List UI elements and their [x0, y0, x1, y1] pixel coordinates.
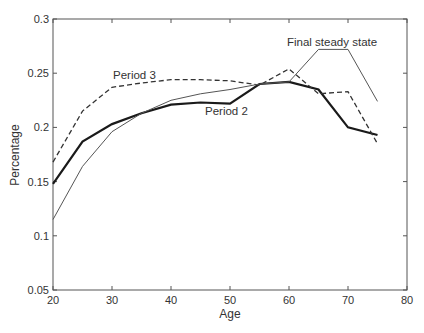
x-axis-label: Age [219, 307, 241, 321]
series-final-steady-state [53, 49, 378, 219]
y-tick-label: 0.1 [34, 230, 49, 242]
x-tick-label: 70 [342, 294, 354, 306]
y-tick-label: 0.3 [34, 13, 49, 25]
annotation-period-2: Period 2 [205, 105, 248, 117]
axis-ticks: 203040506070800.050.10.150.20.250.3 [28, 13, 414, 306]
x-tick-label: 60 [283, 294, 295, 306]
y-tick-label: 0.2 [34, 121, 49, 133]
y-tick-label: 0.25 [28, 67, 49, 79]
y-tick-label: 0.05 [28, 284, 49, 296]
series-period-2 [53, 82, 378, 184]
y-tick-label: 0.15 [28, 176, 49, 188]
x-tick-label: 40 [165, 294, 177, 306]
data-series [53, 49, 378, 219]
x-tick-label: 30 [106, 294, 118, 306]
x-tick-label: 50 [224, 294, 236, 306]
annotation-period-3: Period 3 [113, 69, 156, 81]
y-axis-label: Percentage [8, 124, 22, 186]
annotation-final-steady-state: Final steady state [287, 36, 377, 48]
x-tick-label: 80 [401, 294, 413, 306]
line-chart: 203040506070800.050.10.150.20.250.3 Age … [0, 0, 424, 333]
